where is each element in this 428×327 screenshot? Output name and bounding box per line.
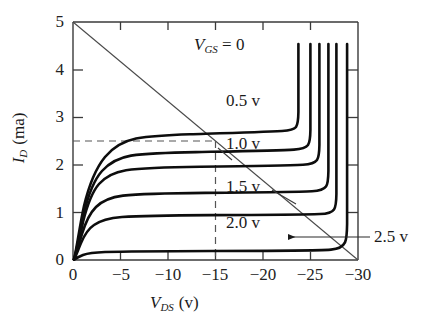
x-axis-title-symbol: V [150,293,160,312]
figure-drain-characteristics: 5 4 3 2 1 0 0 −5 −10 −15 −20 −25 −30 ID(… [0,0,428,327]
y-axis-title-symbol: I [9,158,28,164]
y-tick-label-4: 4 [40,61,64,78]
x-tick-label-minus15: −15 [194,266,236,283]
characteristic-curves [74,44,347,260]
x-tick-label-minus30: −30 [337,266,379,283]
x-tick-label-minus5: −5 [105,266,137,283]
right-axis-tick-marks [348,70,358,213]
vgs-symbol: V [194,35,204,54]
y-tick-label-3: 3 [40,108,64,125]
curve-annotation-2p5v: 2.5 v [374,228,408,245]
y-tick-label-1: 1 [40,204,64,221]
x-axis-title-unit: (v) [179,293,199,312]
x-axis-title-subscript: DS [160,301,173,313]
curve-annotation-1p5v: 1.5 v [226,178,260,195]
top-axis-tick-marks [121,22,311,30]
x-tick-label-minus25: −25 [289,266,331,283]
x-tick-label-minus10: −10 [147,266,189,283]
curve-annotation-vgs-0: VGS = 0 [194,36,244,55]
x-tick-label-minus20: −20 [242,266,284,283]
y-axis-title-unit: (ma) [9,113,28,145]
y-axis-title: ID(ma) [9,93,29,183]
vgs-subscript: GS [204,43,217,55]
curve-annotation-2p0v: 2.0 v [226,214,260,231]
y-tick-label-5: 5 [40,13,64,30]
curve-annotation-0p5v: 0.5 v [226,92,260,109]
curve-annotation-1p0v: 1.0 v [226,135,260,152]
y-tick-label-2: 2 [40,156,64,173]
vgs-equals-zero: = 0 [218,35,245,54]
x-tick-label-0: 0 [61,266,85,283]
y-axis-title-subscript: D [17,150,29,158]
x-axis-title: VDS(v) [150,293,199,313]
